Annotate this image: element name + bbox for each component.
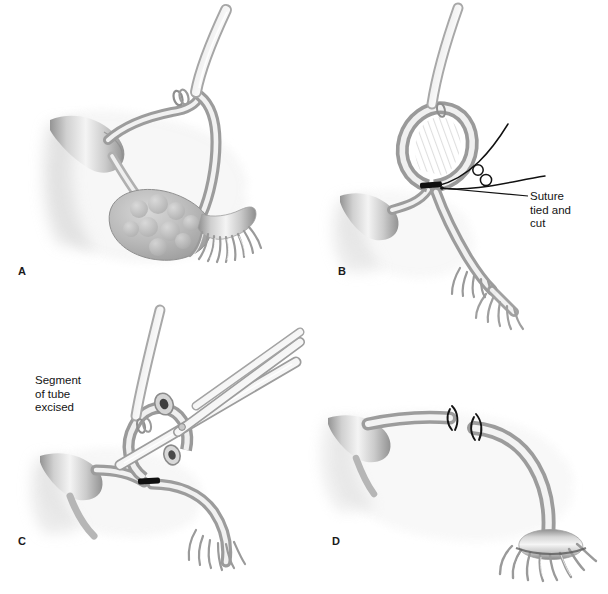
panel-label-b: B: [338, 266, 346, 277]
figure-canvas: A B C D Suture tied and cut Segment of t…: [0, 0, 608, 594]
panel-b: [304, 0, 608, 297]
panel-d: [304, 297, 608, 594]
callout-suture-tied-and-cut: Suture tied and cut: [530, 190, 571, 231]
panel-c: [0, 297, 304, 594]
panel-a: [0, 0, 304, 297]
panel-label-a: A: [18, 266, 26, 277]
panel-label-c: C: [18, 536, 26, 547]
callout-segment-of-tube-excised: Segment of tube excised: [35, 374, 81, 415]
panel-label-d: D: [332, 536, 340, 547]
